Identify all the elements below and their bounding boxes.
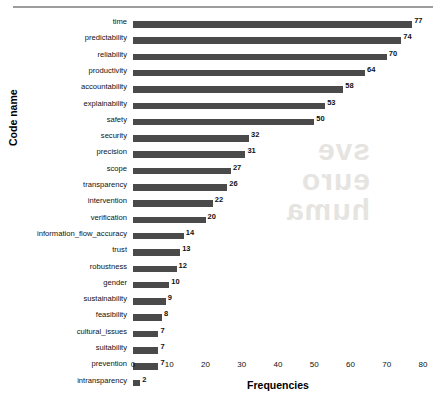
bar-row: gender10 <box>133 278 423 294</box>
bar-row: reliability70 <box>133 50 423 66</box>
bar-value-label: 9 <box>168 293 172 302</box>
bar-value-label: 26 <box>229 179 237 188</box>
bar-row: productivity64 <box>133 66 423 82</box>
category-label: cultural_issues <box>77 327 127 336</box>
bar-value-label: 27 <box>233 163 241 172</box>
bar-row: robustness12 <box>133 262 423 278</box>
category-label: sustainability <box>84 294 127 303</box>
bar-value-label: 77 <box>414 16 422 25</box>
category-label: predictability <box>85 33 127 42</box>
bar <box>133 249 180 256</box>
bar <box>133 200 213 207</box>
category-label: explainability <box>84 99 127 108</box>
bar-row: suitability7 <box>133 343 423 359</box>
bar-row: sustainability9 <box>133 294 423 310</box>
bar <box>133 151 245 158</box>
bar-value-label: 20 <box>208 212 216 221</box>
bar-value-label: 64 <box>367 65 375 74</box>
bar <box>133 282 169 289</box>
bar-value-label: 53 <box>327 98 335 107</box>
bar <box>133 266 177 273</box>
category-label: information_flow_accuracy <box>37 229 127 238</box>
bar-row: information_flow_accuracy14 <box>133 229 423 245</box>
x-tick-label: 70 <box>382 360 391 369</box>
category-label: productivity <box>89 66 127 75</box>
category-label: reliability <box>97 50 127 59</box>
x-tick-label: 30 <box>237 360 246 369</box>
bar-row: trust13 <box>133 245 423 261</box>
x-tick-label: 10 <box>165 360 174 369</box>
bar <box>133 314 162 321</box>
bar <box>133 86 343 93</box>
bar-row: verification20 <box>133 213 423 229</box>
bar-row: security32 <box>133 131 423 147</box>
bar-row: scope27 <box>133 164 423 180</box>
bar-row: intervention22 <box>133 196 423 212</box>
bar-chart-figure: sve euro huma Code name time77predictabi… <box>0 0 445 410</box>
category-label: prevention <box>92 359 127 368</box>
x-tick-label: 80 <box>419 360 428 369</box>
category-label: accountability <box>81 82 127 91</box>
bar-value-label: 7 <box>160 326 164 335</box>
category-label: scope <box>107 164 127 173</box>
category-label: security <box>101 131 127 140</box>
bar <box>133 168 231 175</box>
bar <box>133 298 166 305</box>
bar-value-label: 58 <box>345 81 353 90</box>
bar <box>133 347 158 354</box>
bar <box>133 331 158 338</box>
bar <box>133 135 249 142</box>
bar-value-label: 10 <box>171 277 179 286</box>
x-tick-label: 40 <box>274 360 283 369</box>
bar <box>133 119 314 126</box>
bar-row: cultural_issues7 <box>133 327 423 343</box>
x-tick-label: 20 <box>201 360 210 369</box>
bar <box>133 233 184 240</box>
bar-row: predictability74 <box>133 33 423 49</box>
category-label: transparency <box>83 180 127 189</box>
bar <box>133 54 387 61</box>
bar-value-label: 14 <box>186 228 194 237</box>
x-axis-title: Frequencies <box>133 379 423 391</box>
bar-value-label: 13 <box>182 244 190 253</box>
bar-row: accountability58 <box>133 82 423 98</box>
bar-row: transparency26 <box>133 180 423 196</box>
x-tick-label: 0 <box>131 360 135 369</box>
category-label: precision <box>97 147 127 156</box>
bar <box>133 184 227 191</box>
bar-value-label: 8 <box>164 309 168 318</box>
x-tick-label: 50 <box>310 360 319 369</box>
bar-row: time77 <box>133 17 423 33</box>
x-tick-label: 60 <box>346 360 355 369</box>
bar <box>133 37 401 44</box>
bar-value-label: 50 <box>316 114 324 123</box>
category-label: trust <box>112 245 127 254</box>
category-label: suitability <box>96 343 127 352</box>
x-axis-ticks: 01020304050607080 <box>133 360 423 374</box>
bar-value-label: 32 <box>251 130 259 139</box>
bar-value-label: 12 <box>179 261 187 270</box>
bar-value-label: 22 <box>215 195 223 204</box>
bar-row: safety50 <box>133 115 423 131</box>
bar-row: precision31 <box>133 147 423 163</box>
bar-value-label: 31 <box>247 146 255 155</box>
category-label: time <box>113 17 127 26</box>
category-label: robustness <box>90 262 127 271</box>
bar-row: explainability53 <box>133 99 423 115</box>
bar <box>133 70 365 77</box>
bar-row: feasibility8 <box>133 310 423 326</box>
category-label: feasibility <box>96 310 127 319</box>
bar <box>133 217 206 224</box>
bar-value-label: 70 <box>389 49 397 58</box>
bar-value-label: 7 <box>160 342 164 351</box>
bar-value-label: 74 <box>403 32 411 41</box>
category-label: intransparency <box>77 376 127 385</box>
category-label: intervention <box>88 196 127 205</box>
category-label: gender <box>103 278 127 287</box>
plot-area: time77predictability74reliability70produ… <box>133 17 423 354</box>
category-label: verification <box>91 213 127 222</box>
bar <box>133 21 412 28</box>
category-label: safety <box>107 115 127 124</box>
bar <box>133 103 325 110</box>
top-divider-rule <box>13 6 433 8</box>
